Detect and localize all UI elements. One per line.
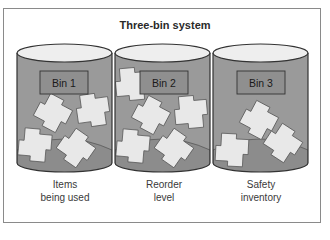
- bin-1-caption: Items being used: [15, 178, 115, 204]
- bin-2-label: Bin 2: [152, 77, 176, 89]
- bin-2-caption-line1: Reorder: [114, 178, 214, 191]
- bin-1-caption-line1: Items: [15, 178, 115, 191]
- bin-1-caption-line2: being used: [15, 191, 115, 204]
- bin-3-caption-line2: inventory: [211, 191, 311, 204]
- bin-1: [17, 44, 112, 175]
- bin-3: [213, 44, 308, 175]
- bin-2-caption-line2: level: [114, 191, 214, 204]
- bin-2: [114, 44, 210, 175]
- bin-3-caption: Safety inventory: [211, 178, 311, 204]
- bin-3-caption-line1: Safety: [211, 178, 311, 191]
- bin-2-caption: Reorder level: [114, 178, 214, 204]
- bin-3-label: Bin 3: [249, 77, 273, 89]
- bin-1-label: Bin 1: [52, 77, 76, 89]
